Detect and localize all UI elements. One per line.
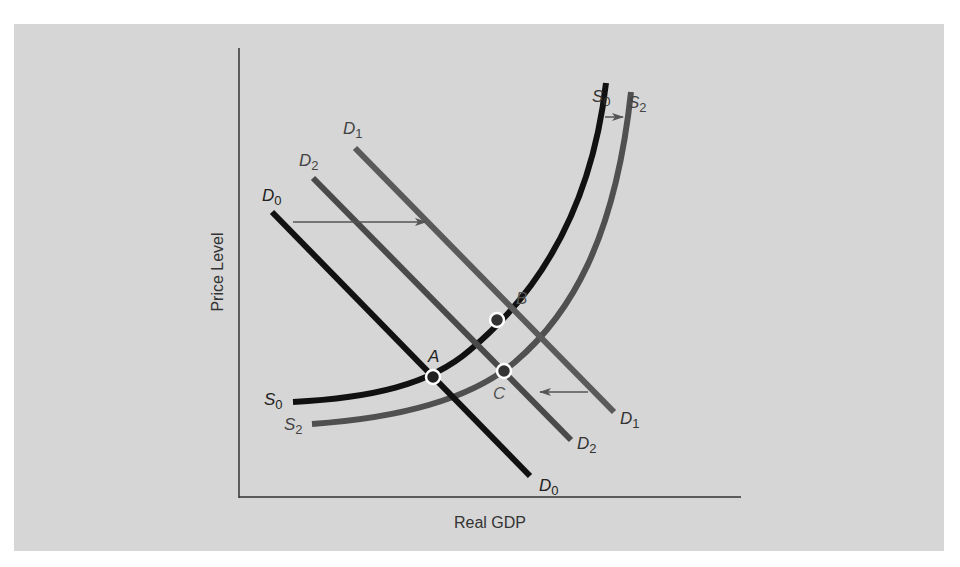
- curve-label-d0-top: D0: [262, 186, 282, 208]
- ad-as-diagram: Real GDP Price Level A B C D0 D2 D1 S0 S…: [0, 0, 960, 567]
- demand-curve-d1: [355, 148, 614, 412]
- point-label-b: B: [516, 289, 527, 308]
- x-axis-label: Real GDP: [454, 514, 526, 531]
- equilibrium-point-b: [490, 313, 504, 327]
- curve-label-s2-bottom: S2: [284, 415, 303, 437]
- curve-label-s0-bottom: S0: [264, 390, 283, 412]
- y-axis-label: Price Level: [209, 232, 226, 311]
- curve-label-d2-top: D2: [299, 151, 319, 173]
- curve-label-d1-bottom: D1: [620, 409, 640, 431]
- point-label-a: A: [427, 347, 439, 366]
- equilibrium-point-a: [426, 370, 440, 384]
- supply-curve-s2: [312, 92, 631, 424]
- equilibrium-point-c: [497, 364, 511, 378]
- point-label-c: C: [493, 384, 506, 403]
- curve-label-d2-bottom: D2: [577, 434, 597, 456]
- curve-label-s2-top: S2: [628, 93, 647, 115]
- demand-curve-d0: [272, 212, 530, 476]
- curve-label-d0-bottom: D0: [539, 476, 559, 498]
- curve-label-d1-top: D1: [343, 119, 363, 141]
